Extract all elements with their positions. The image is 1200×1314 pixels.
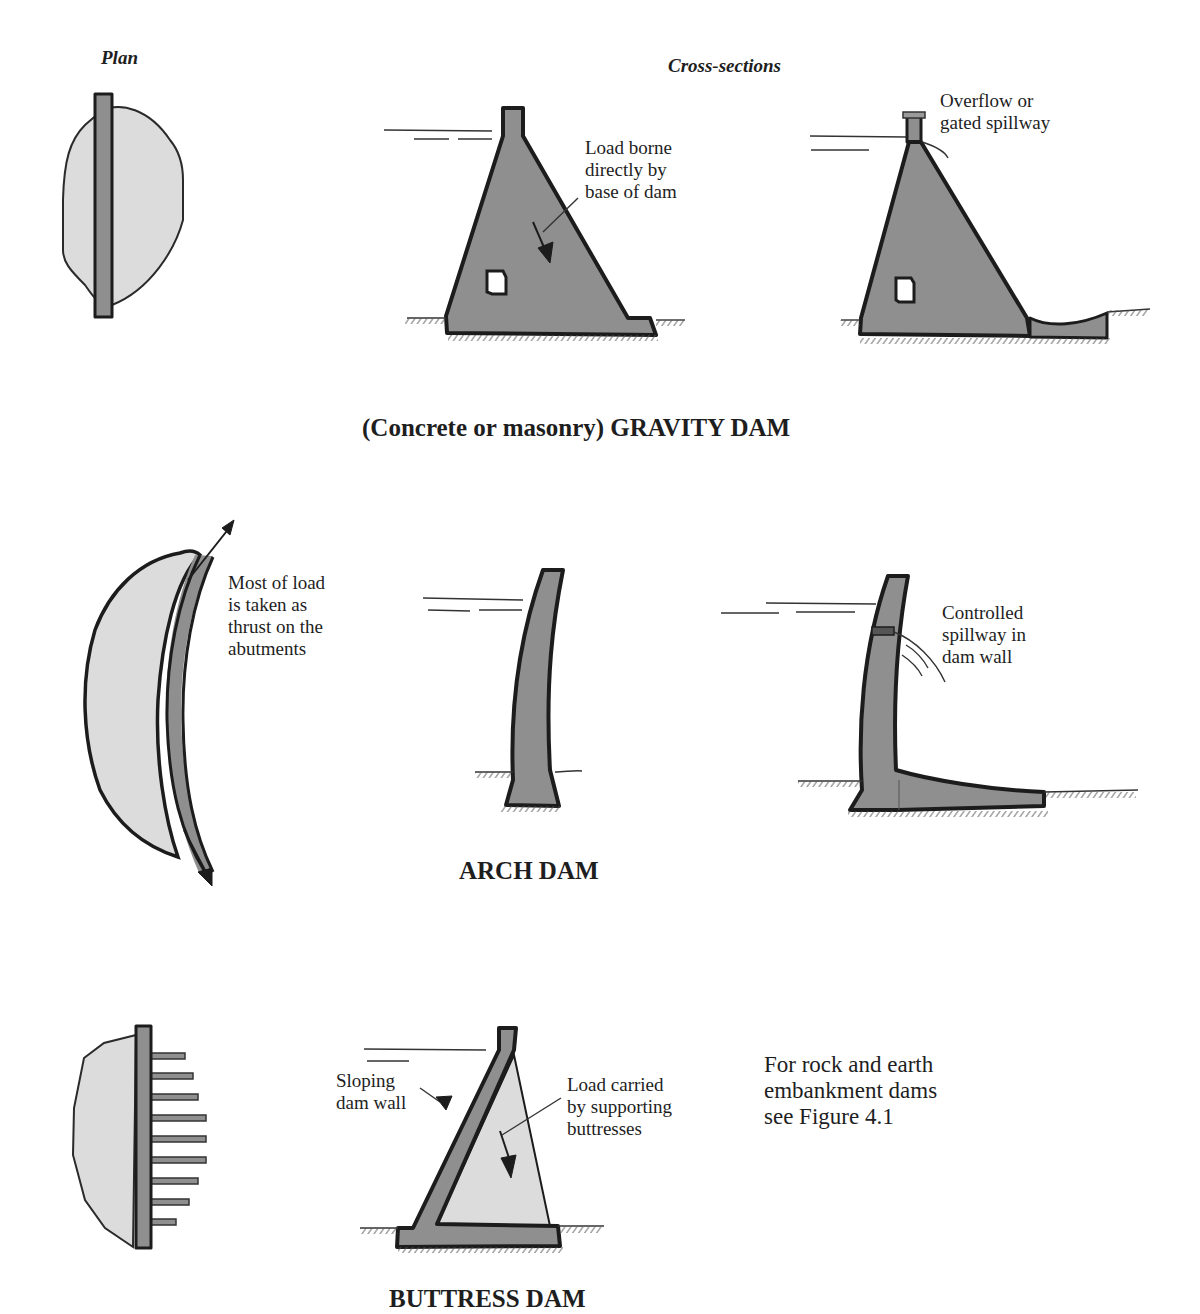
arch-dam-body [506, 570, 563, 806]
arch-spillway-annotation: Controlled spillway in dam wall [942, 602, 1026, 668]
arch-thrust-annotation: Most of load is taken as thrust on the a… [228, 572, 325, 660]
gravity-plan-view [63, 94, 183, 317]
reservoir-area [63, 107, 183, 305]
arch-dam-caption: ARCH DAM [459, 857, 599, 885]
arch-spillway-cross-section [721, 576, 1138, 817]
inspection-gallery-2 [896, 278, 914, 302]
cross-sections-header: Cross-sections [668, 55, 781, 77]
buttress-ribs [151, 1053, 206, 1225]
dam-wall [95, 94, 112, 317]
sloping-wall-arrow-icon [436, 1096, 452, 1110]
plan-header: Plan [101, 47, 138, 69]
buttress-sloping-wall-annotation: Sloping dam wall [336, 1070, 406, 1114]
buttress-dam-caption: BUTTRESS DAM [389, 1285, 586, 1313]
sloping-wall-leader [420, 1088, 440, 1102]
gravity-dam-body-2 [860, 142, 1030, 336]
buttress-cross-section [360, 1028, 604, 1253]
embankment-footnote: For rock and earth embankment dams see F… [764, 1052, 937, 1130]
spillway-opening [872, 627, 894, 635]
buttress-load-annotation: Load carried by supporting buttresses [567, 1074, 672, 1140]
spillway-crest [903, 112, 925, 118]
arch-cross-section [423, 570, 582, 812]
gravity-spillway-annotation: Overflow or gated spillway [940, 90, 1050, 134]
stilling-basin [1030, 313, 1107, 338]
arch-plan-view [85, 520, 234, 886]
dam-wall [136, 1026, 151, 1248]
gravity-load-annotation: Load borne directly by base of dam [585, 137, 677, 203]
gravity-spillway-cross-section [810, 112, 1150, 344]
gravity-dam-caption: (Concrete or masonry) GRAVITY DAM [362, 414, 790, 442]
buttress-plan-view [73, 1026, 206, 1248]
thrust-arrow-up-icon [222, 520, 234, 535]
inspection-gallery [487, 271, 506, 294]
reservoir-area [73, 1035, 136, 1247]
